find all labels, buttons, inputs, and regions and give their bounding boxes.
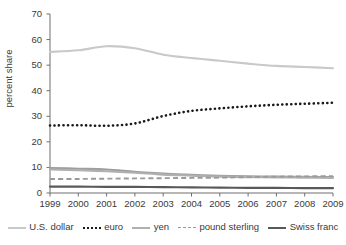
series-line-unlabeled-upper-gray: [50, 168, 333, 177]
legend-item-euro[interactable]: euro: [83, 221, 124, 232]
chart-legend: U.S. dollareuroyenpound sterlingSwiss fr…: [0, 221, 346, 232]
y-axis-tick-10: 10: [16, 162, 42, 172]
y-axis-tick-50: 50: [16, 60, 42, 70]
y-axis-tick-60: 60: [16, 35, 42, 45]
legend-item-label: pound sterling: [199, 221, 259, 232]
series-line-euro: [50, 103, 333, 126]
legend-item-yen[interactable]: yen: [132, 221, 169, 232]
chart-container: percent share 010203040506070 1999200020…: [0, 0, 346, 245]
legend-item-label: euro: [104, 221, 123, 232]
y-axis-tick-30: 30: [16, 111, 42, 121]
legend-item-label: Swiss franc: [290, 221, 339, 232]
legend-swatch-icon: [268, 223, 286, 231]
legend-item-pound-sterling[interactable]: pound sterling: [178, 221, 259, 232]
legend-swatch-icon: [132, 223, 150, 231]
y-axis-tick-40: 40: [16, 86, 42, 96]
y-axis-tick-20: 20: [16, 137, 42, 147]
series-line-pound-sterling: [50, 176, 333, 179]
legend-item-label: U.S. dollar: [29, 221, 73, 232]
series-line-yen: [50, 169, 333, 177]
legend-item-u-s-dollar[interactable]: U.S. dollar: [8, 221, 74, 232]
legend-item-label: yen: [154, 221, 169, 232]
series-line-u-s-dollar: [50, 46, 333, 68]
y-axis-title: percent share: [3, 19, 14, 139]
legend-swatch-icon: [83, 223, 101, 231]
series-line-swiss-franc: [50, 187, 333, 189]
y-axis-tick-0: 0: [16, 188, 42, 198]
y-axis-tick-70: 70: [16, 9, 42, 19]
legend-swatch-icon: [8, 223, 26, 231]
x-axis-tick-2009: 2009: [316, 199, 346, 209]
legend-item-swiss-franc[interactable]: Swiss franc: [268, 221, 338, 232]
legend-swatch-icon: [178, 223, 196, 231]
